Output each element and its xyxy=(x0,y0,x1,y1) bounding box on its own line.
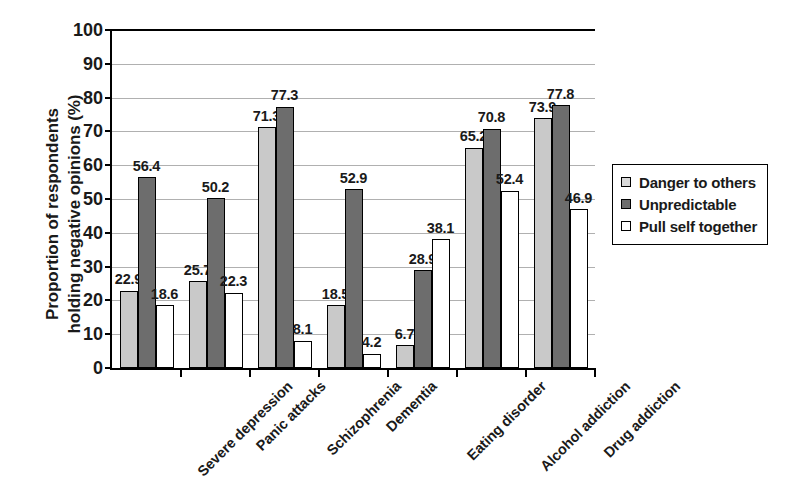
legend-item-label: Danger to others xyxy=(639,174,756,191)
bar-value-label: 77.8 xyxy=(547,87,574,102)
bar[interactable] xyxy=(258,127,276,368)
y-axis-tick-mark xyxy=(105,333,112,335)
bar-group: 18.552.94.2 xyxy=(319,30,388,368)
bar[interactable] xyxy=(276,107,294,368)
bar[interactable] xyxy=(189,281,207,368)
bar[interactable] xyxy=(345,189,363,368)
x-axis-category-label: Alcohol addiction xyxy=(537,378,633,474)
x-axis-tick-mark xyxy=(180,368,182,377)
bar[interactable] xyxy=(396,345,414,368)
y-axis-tick-mark xyxy=(105,29,112,31)
x-axis-tick-mark xyxy=(249,368,251,377)
bar[interactable] xyxy=(465,148,483,368)
bar[interactable] xyxy=(327,305,345,368)
bar[interactable] xyxy=(570,209,588,368)
y-axis-tick-label: 70 xyxy=(83,121,103,142)
bar[interactable] xyxy=(294,341,312,368)
y-axis-tick-label: 20 xyxy=(83,290,103,311)
bar-value-label: 38.1 xyxy=(427,221,454,236)
y-axis-tick-mark xyxy=(105,232,112,234)
legend-swatch-icon xyxy=(621,177,631,187)
y-axis-tick-mark xyxy=(105,130,112,132)
y-axis-tick-mark xyxy=(105,97,112,99)
bar[interactable] xyxy=(552,105,570,368)
bar[interactable] xyxy=(534,118,552,368)
bar-group: 6.728.938.1 xyxy=(388,30,457,368)
y-axis-tick-label: 10 xyxy=(83,324,103,345)
plot-area: 0102030405060708090100 22.956.418.625.75… xyxy=(110,30,595,370)
x-axis-category-label: Eating disorder xyxy=(463,378,548,463)
bar-group: 25.750.222.3 xyxy=(181,30,250,368)
legend-swatch-icon xyxy=(621,221,631,231)
bar[interactable] xyxy=(156,305,174,368)
bar[interactable] xyxy=(138,177,156,368)
bar-value-label: 50.2 xyxy=(202,180,229,195)
legend-item[interactable]: Pull self together xyxy=(621,215,757,237)
bar-group: 65.270.852.4 xyxy=(457,30,526,368)
bar-value-label: 52.4 xyxy=(496,172,523,187)
x-axis-tick-mark xyxy=(525,368,527,377)
legend-item[interactable]: Unpredictable xyxy=(621,193,757,215)
bar[interactable] xyxy=(501,191,519,368)
y-axis-tick-mark xyxy=(105,299,112,301)
bar-groups: 22.956.418.625.750.222.371.377.38.118.55… xyxy=(112,30,595,368)
legend-item-label: Pull self together xyxy=(639,218,757,235)
y-axis-title-line-1: Proportion of respondents xyxy=(42,108,64,320)
legend-item[interactable]: Danger to others xyxy=(621,171,757,193)
bar[interactable] xyxy=(432,239,450,368)
y-axis-tick-label: 100 xyxy=(73,20,103,41)
y-axis-tick-mark xyxy=(105,164,112,166)
y-axis-tick-label: 60 xyxy=(83,155,103,176)
y-axis-tick-label: 80 xyxy=(83,87,103,108)
y-axis-tick-label: 90 xyxy=(83,53,103,74)
bar[interactable] xyxy=(363,354,381,368)
y-axis-tick-label: 0 xyxy=(93,358,103,379)
bar[interactable] xyxy=(120,291,138,368)
bar-value-label: 8.1 xyxy=(293,322,313,337)
legend-swatch-icon xyxy=(621,199,631,209)
bar-group: 22.956.418.6 xyxy=(112,30,181,368)
bar-group: 71.377.38.1 xyxy=(250,30,319,368)
bar-value-label: 18.6 xyxy=(151,287,178,302)
bar[interactable] xyxy=(483,129,501,368)
bar-value-label: 77.3 xyxy=(271,88,298,103)
y-axis-tick-mark xyxy=(105,266,112,268)
bar-chart: Proportion of respondents holding negati… xyxy=(0,0,805,496)
bar-value-label: 52.9 xyxy=(340,171,367,186)
y-axis-tick-label: 40 xyxy=(83,222,103,243)
bar-value-label: 6.7 xyxy=(395,327,415,342)
x-axis-tick-mark xyxy=(456,368,458,377)
bar-value-label: 46.9 xyxy=(565,191,592,206)
bar-value-label: 4.2 xyxy=(362,335,382,350)
legend: Danger to othersUnpredictablePull self t… xyxy=(612,164,768,245)
y-axis-tick-mark xyxy=(105,63,112,65)
bar[interactable] xyxy=(225,293,243,368)
bar[interactable] xyxy=(414,270,432,368)
x-axis-tick-mark xyxy=(594,368,596,377)
bar-value-label: 70.8 xyxy=(478,110,505,125)
bar-value-label: 22.3 xyxy=(220,274,247,289)
y-axis-tick-label: 50 xyxy=(83,189,103,210)
y-axis-tick-mark xyxy=(105,367,112,369)
bar-value-label: 56.4 xyxy=(133,159,160,174)
x-axis-tick-mark xyxy=(318,368,320,377)
x-axis-tick-mark xyxy=(387,368,389,377)
y-axis-tick-label: 30 xyxy=(83,256,103,277)
y-axis-tick-mark xyxy=(105,198,112,200)
legend-item-label: Unpredictable xyxy=(639,196,736,213)
bar-group: 73.977.846.9 xyxy=(526,30,595,368)
